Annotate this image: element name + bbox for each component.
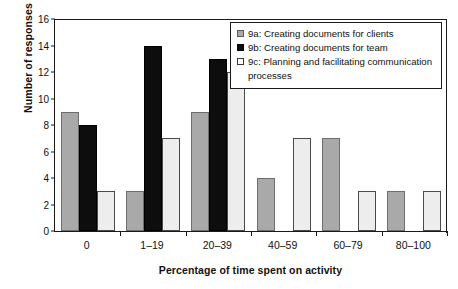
y-tick-mark (51, 151, 55, 152)
bar-9a-80–100 (387, 191, 405, 231)
y-tick-label: 8 (9, 120, 55, 131)
y-tick-mark (51, 204, 55, 205)
x-tick-mark (186, 231, 187, 236)
bar-9c-0 (97, 191, 115, 231)
bar-9a-40–59 (257, 178, 275, 231)
x-tick-label: 20–39 (203, 239, 232, 251)
bar-9c-20–39 (227, 72, 245, 231)
y-tick-mark (51, 178, 55, 179)
bar-9c-60–79 (358, 191, 376, 231)
y-tick-mark (51, 45, 55, 46)
bar-9b-1–19 (144, 46, 162, 232)
x-tick-label: 0 (84, 239, 90, 251)
chart-legend: 9a: Creating documents for clients 9b: C… (230, 22, 442, 89)
y-tick-label: 4 (9, 173, 55, 184)
x-tick-label: 40–59 (268, 239, 297, 251)
x-axis-title: Percentage of time spent on activity (54, 264, 447, 276)
x-tick-mark (316, 231, 317, 236)
bar-9a-60–79 (322, 138, 340, 231)
bar-9b-0 (79, 125, 97, 231)
y-tick-label: 2 (9, 199, 55, 210)
y-tick-label: 0 (9, 226, 55, 237)
legend-item-9a: 9a: Creating documents for clients (237, 27, 435, 40)
x-tick-label: 80–100 (396, 239, 431, 251)
bar-9c-80–100 (423, 191, 441, 231)
legend-label-9c: 9c: Planning and facilitating communicat… (248, 55, 435, 81)
y-tick-mark (51, 125, 55, 126)
x-tick-label: 60–79 (333, 239, 362, 251)
bar-9a-20–39 (191, 112, 209, 231)
y-tick-mark (51, 19, 55, 20)
legend-swatch-9c-icon (237, 58, 244, 65)
legend-label-9b: 9b: Creating documents for team (248, 41, 435, 54)
y-tick-label: 14 (9, 40, 55, 51)
bar-9b-20–39 (209, 59, 227, 231)
x-tick-label: 1–19 (140, 239, 163, 251)
legend-item-9c: 9c: Planning and facilitating communicat… (237, 55, 435, 81)
y-tick-mark (51, 72, 55, 73)
bar-9a-1–19 (126, 191, 144, 231)
x-tick-mark (382, 231, 383, 236)
bar-9c-1–19 (162, 138, 180, 231)
y-tick-label: 12 (9, 67, 55, 78)
x-tick-mark (120, 231, 121, 236)
x-tick-mark (251, 231, 252, 236)
y-tick-label: 16 (9, 14, 55, 25)
y-tick-label: 6 (9, 146, 55, 157)
bar-9c-40–59 (293, 138, 311, 231)
bar-9a-0 (61, 112, 79, 231)
y-tick-label: 10 (9, 93, 55, 104)
legend-label-9a: 9a: Creating documents for clients (248, 27, 435, 40)
legend-swatch-9a-icon (237, 30, 244, 37)
x-tick-mark (447, 231, 448, 236)
bar-chart: Number of responses 0246810121416 Percen… (0, 0, 458, 289)
legend-item-9b: 9b: Creating documents for team (237, 41, 435, 54)
y-tick-mark (51, 231, 55, 232)
y-tick-mark (51, 98, 55, 99)
legend-swatch-9b-icon (237, 44, 244, 51)
